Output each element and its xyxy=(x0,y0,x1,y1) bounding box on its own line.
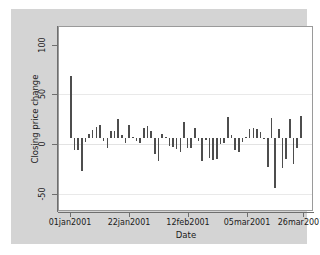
y-tick-100 xyxy=(52,45,57,46)
y-tick-0 xyxy=(52,144,57,145)
bar xyxy=(77,138,79,151)
bar xyxy=(165,137,167,138)
bar xyxy=(256,129,258,138)
bar xyxy=(227,117,229,138)
bar xyxy=(194,128,196,138)
y-tick-label-50-wrap: 50 xyxy=(35,79,49,109)
bar xyxy=(150,131,152,138)
bar xyxy=(136,138,138,141)
bar xyxy=(238,138,240,152)
x-tick-label-2: 12feb2001 xyxy=(166,218,209,227)
x-axis-line xyxy=(58,212,314,213)
chart-figure: Closing price change 100 50 0 -50 xyxy=(0,0,319,255)
x-tick-label-1: 22jan2001 xyxy=(108,218,151,227)
bar xyxy=(180,138,182,152)
bar xyxy=(154,138,156,154)
bar xyxy=(169,138,171,147)
bar xyxy=(245,137,247,138)
bar xyxy=(92,130,94,138)
y-tick-50 xyxy=(52,94,57,95)
bar xyxy=(278,129,280,138)
bar xyxy=(99,125,101,138)
bar xyxy=(201,138,203,161)
y-tick-label-0: 0 xyxy=(38,141,47,146)
bar xyxy=(205,138,207,140)
bar xyxy=(190,138,192,149)
bar xyxy=(128,125,130,138)
bar xyxy=(103,138,105,141)
bar-series xyxy=(59,27,312,210)
bar xyxy=(212,138,214,160)
x-tick-label-0: 01jan2001 xyxy=(49,218,92,227)
bar xyxy=(161,134,163,138)
bar xyxy=(289,119,291,138)
y-tick-neg50 xyxy=(52,194,57,195)
bar xyxy=(234,138,236,151)
bar xyxy=(125,138,127,143)
y-tick-label-100-wrap: 100 xyxy=(35,30,49,60)
bar xyxy=(143,128,145,138)
bar xyxy=(85,138,87,142)
y-tick-label-neg50-wrap: -50 xyxy=(35,179,49,209)
bar xyxy=(267,138,269,167)
bar xyxy=(223,138,225,143)
bar xyxy=(263,138,265,139)
bar xyxy=(260,132,262,138)
bar xyxy=(114,131,116,138)
plot-region xyxy=(58,26,313,211)
bar xyxy=(121,135,123,138)
bar xyxy=(300,116,302,138)
x-tick-4 xyxy=(303,213,304,217)
bar xyxy=(242,138,244,142)
bar xyxy=(139,138,141,143)
bar xyxy=(132,137,134,138)
bar xyxy=(282,138,284,168)
bar xyxy=(285,138,287,159)
bar xyxy=(216,138,218,159)
y-tick-label-100: 100 xyxy=(38,37,47,52)
bar xyxy=(296,138,298,149)
bar xyxy=(88,134,90,138)
x-tick-label-4: 26mar2001 xyxy=(278,218,319,227)
y-tick-label-50: 50 xyxy=(38,89,47,99)
bar xyxy=(147,126,149,138)
bar xyxy=(158,138,160,161)
bar xyxy=(183,122,185,137)
bar xyxy=(110,131,112,138)
bar xyxy=(220,138,222,144)
bar xyxy=(293,138,295,164)
bar xyxy=(81,138,83,171)
bar xyxy=(107,138,109,149)
y-tick-label-0-wrap: 0 xyxy=(35,129,49,159)
x-tick-3 xyxy=(247,213,248,217)
bar xyxy=(172,138,174,148)
bar xyxy=(117,119,119,137)
bar xyxy=(274,138,276,188)
bar xyxy=(176,138,178,150)
x-tick-1 xyxy=(129,213,130,217)
bar xyxy=(249,129,251,138)
bar xyxy=(231,135,233,138)
graph-canvas: Closing price change 100 50 0 -50 xyxy=(11,9,307,244)
bar xyxy=(198,138,200,141)
bar xyxy=(209,138,211,158)
bar xyxy=(271,118,273,138)
bar xyxy=(187,138,189,149)
bar xyxy=(70,76,72,138)
x-tick-2 xyxy=(188,213,189,217)
x-axis-title: Date xyxy=(58,230,314,240)
x-tick-label-3: 05mar2001 xyxy=(224,218,271,227)
x-tick-0 xyxy=(70,213,71,217)
bar xyxy=(74,138,76,151)
bar xyxy=(253,128,255,138)
bar xyxy=(96,127,98,138)
y-tick-label-neg50: -50 xyxy=(38,187,47,200)
